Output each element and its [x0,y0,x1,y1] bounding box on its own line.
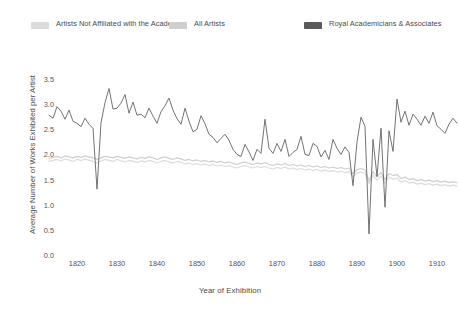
series-line-artists-not-affiliated-with-the-academy [49,159,457,186]
chart-container: Artists Not Affiliated with the Academy … [0,0,460,310]
plot-area: Average Number of Works Exhibited per Ar… [0,0,460,310]
series-lines [0,0,460,310]
